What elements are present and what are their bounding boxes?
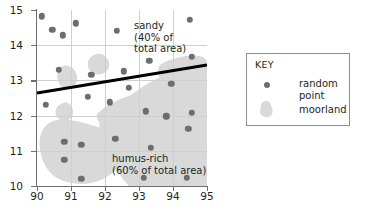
x-tick-label-91: 91 [64, 191, 77, 202]
y-tick-label-11: 11 [10, 146, 23, 157]
y-tick-15 [31, 10, 37, 11]
y-tick-12 [31, 116, 37, 117]
chart-figure: sandy (40% of total area) humus-rich (60… [0, 0, 374, 213]
plot-area: sandy (40% of total area) humus-rich (60… [37, 10, 207, 186]
annotation-sandy-line2: (40% of [134, 32, 186, 44]
x-axis-line [36, 186, 208, 187]
y-axis-line [36, 9, 37, 187]
y-tick-label-10: 10 [10, 181, 23, 192]
y-tick-13 [31, 80, 37, 81]
annotation-sandy-line1: sandy [134, 20, 186, 32]
x-tick-label-95: 95 [200, 191, 213, 202]
legend-moorland-icon [258, 100, 276, 119]
y-tick-label-15: 15 [10, 5, 23, 16]
legend-box: KEY random point moorland [246, 53, 350, 126]
legend-random-point-icon [264, 82, 270, 88]
x-tick-label-94: 94 [166, 191, 179, 202]
y-tick-label-12: 12 [10, 110, 23, 121]
y-tick-11 [31, 151, 37, 152]
y-tick-label-13: 13 [10, 75, 23, 86]
legend-label-moorland: moorland [299, 104, 347, 116]
annotation-sandy: sandy (40% of total area) [134, 20, 186, 55]
legend-title: KEY [255, 59, 274, 70]
annotation-humus-line2: (60% of total area) [112, 165, 206, 177]
x-tick-label-90: 90 [30, 191, 43, 202]
x-tick-label-92: 92 [98, 191, 111, 202]
annotation-humus-line1: humus-rich [112, 153, 206, 165]
annotation-sandy-line3: total area) [134, 43, 186, 55]
y-tick-14 [31, 45, 37, 46]
x-tick-label-93: 93 [132, 191, 145, 202]
annotation-humus-rich: humus-rich (60% of total area) [112, 153, 206, 176]
scatter-chart: sandy (40% of total area) humus-rich (60… [0, 0, 230, 213]
legend-label-random-point: random point [299, 78, 338, 101]
y-tick-label-14: 14 [10, 40, 23, 51]
